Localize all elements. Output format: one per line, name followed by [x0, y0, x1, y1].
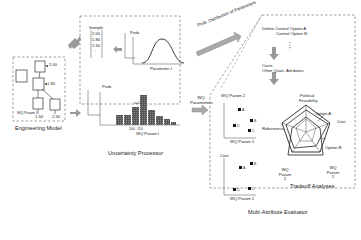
radar-axis-political: Political Feasibility [299, 94, 315, 103]
arrow-prob-distribution [196, 32, 241, 56]
histogram-annotation: x=1 [134, 101, 140, 106]
sample-value: 1.80 [92, 38, 100, 43]
radar-series-option-b [288, 117, 323, 155]
uncertainty-processor-caption: Uncertainty Processor [108, 150, 163, 156]
down-arrow-2 [269, 72, 279, 85]
scatter2-xlabel: WQ Param 1 [230, 197, 254, 202]
point-label: D [237, 188, 239, 193]
wq-parameters-label: WQ Parameters [190, 96, 212, 105]
radar-axis-wq2: WQ Param 2 [278, 168, 292, 182]
down-arrow-1 [269, 47, 279, 60]
model-node [50, 99, 60, 110]
point-label: C [252, 187, 254, 192]
scatter1-ylabel: WQ Param 2 [221, 94, 245, 99]
model-node [33, 78, 44, 90]
scatter1-xlabel: WQ Param 1 [230, 140, 254, 145]
tradeoff-caption: Tradeoff Analyses [290, 183, 334, 189]
sample-value: 2.00 [92, 32, 100, 37]
evaluator-caption: Multi-Attribute Evaluator [248, 209, 308, 215]
engineering-model-caption: Engineering Model [15, 125, 62, 131]
arrow-to-model [68, 36, 81, 49]
other-attributes-label: Other Quan. Attributes [262, 69, 304, 74]
model-value-3: 1.50 [35, 115, 43, 120]
point-label: B [254, 162, 256, 167]
radar-legend-option-b: Option B [325, 146, 341, 151]
top-plot-ylabel: Prob. [130, 31, 140, 36]
scatter2-ylabel: Cost [220, 154, 229, 159]
point-label: C [252, 129, 254, 134]
radar-legend-option-a: Option A [315, 112, 331, 117]
top-plot-xlabel: Parameter I [150, 67, 172, 72]
arrow-model-to-processor [70, 109, 81, 117]
model-node [35, 61, 45, 72]
model-value-4: 2.50 [52, 115, 60, 120]
model-value-2: 1.80 [47, 82, 55, 87]
point-label: A [243, 166, 245, 171]
model-value-1: 2.00 [49, 63, 57, 68]
arrow-wq-parameters [192, 105, 208, 115]
model-node [33, 98, 43, 109]
distribution-curve [142, 39, 184, 63]
model-param-label: WQ Param I [17, 111, 37, 116]
bottom-plot-xlabel: WQ Param I [136, 132, 159, 137]
radar-axis-cost: Cost [337, 120, 346, 125]
define-option-b: Control Option B [276, 32, 307, 37]
model-node [16, 70, 27, 82]
point-label: B [254, 119, 256, 124]
radar-axis-robustness: Robustness [262, 127, 284, 132]
bottom-plot-ylabel: Prob. [102, 85, 112, 90]
sample-value: 1.50 [92, 44, 100, 49]
radar-axis-wq1: WQ Param 1 [326, 166, 340, 180]
sample-header: Sample [89, 26, 103, 31]
tick-label: 100 [129, 127, 135, 132]
point-label: A [242, 108, 244, 113]
histogram-bars [116, 95, 176, 125]
sample-value: : [95, 49, 96, 54]
point-label: D [237, 124, 239, 129]
